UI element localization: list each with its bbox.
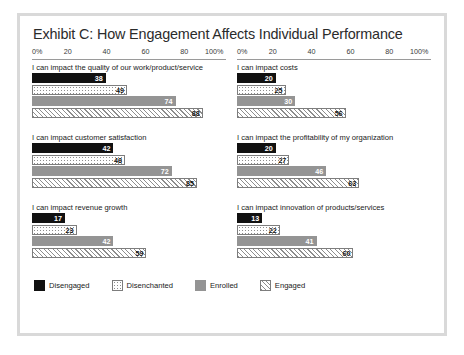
x-axis-left: 0%20406080100% <box>32 47 232 64</box>
axis-tick: 20 <box>269 47 277 56</box>
bar-row: 41 <box>237 236 437 246</box>
bar-disenchanted: 48 <box>32 155 125 165</box>
bar-value-label: 20 <box>265 144 273 154</box>
bar-row: 88 <box>32 108 232 118</box>
bar-group: 42487285 <box>32 143 232 188</box>
bar-engaged: 59 <box>32 248 146 258</box>
axis-tick: 60 <box>346 47 354 56</box>
bar-enrolled: 74 <box>32 96 176 106</box>
legend-item-disenchanted: Disenchanted <box>112 280 173 291</box>
bar-value-label: 63 <box>348 179 356 189</box>
bar-row: 23 <box>32 225 232 235</box>
bar-row: 85 <box>32 178 232 188</box>
legend-item-disengaged: Disengaged <box>34 280 90 291</box>
bar-row: 30 <box>237 96 437 106</box>
bar-enrolled: 46 <box>237 166 326 176</box>
legend-swatch <box>34 280 45 291</box>
chart-panel: I can impact the profitability of my org… <box>237 134 437 204</box>
panel-label: I can impact revenue growth <box>32 204 232 214</box>
chart-panel: I can impact revenue growth17234259 <box>32 204 232 274</box>
bar-disengaged: 13 <box>237 213 262 223</box>
axis-tick: 60 <box>141 47 149 56</box>
bar-value-label: 25 <box>275 86 283 96</box>
bar-row: 20 <box>237 143 437 153</box>
axis-tick: 80 <box>180 47 188 56</box>
bar-value-label: 27 <box>278 156 286 166</box>
panel-label: I can impact innovation of products/serv… <box>237 204 437 214</box>
axis-tick: 0% <box>237 47 247 56</box>
bar-value-label: 56 <box>335 109 343 119</box>
bar-value-label: 22 <box>269 226 277 236</box>
bar-row: 42 <box>32 143 232 153</box>
bar-enrolled: 42 <box>32 236 113 246</box>
bar-disengaged: 42 <box>32 143 113 153</box>
bar-disenchanted: 49 <box>32 85 127 95</box>
bar-row: 49 <box>32 85 232 95</box>
bar-group: 38497488 <box>32 73 232 118</box>
bar-group: 17234259 <box>32 213 232 258</box>
bar-enrolled: 41 <box>237 236 317 246</box>
legend-label: Engaged <box>275 281 305 290</box>
bar-row: 46 <box>237 166 437 176</box>
bar-group: 20253056 <box>237 73 437 118</box>
axis-rule <box>32 59 226 60</box>
bar-row: 22 <box>237 225 437 235</box>
bar-disengaged: 20 <box>237 143 276 153</box>
axis-tick: 0% <box>32 47 42 56</box>
axis-tick: 100% <box>205 47 223 56</box>
bar-row: 27 <box>237 155 437 165</box>
axis-tick: 20 <box>64 47 72 56</box>
bar-row: 17 <box>32 213 232 223</box>
bar-row: 56 <box>237 108 437 118</box>
bar-value-label: 46 <box>315 167 323 177</box>
bar-value-label: 38 <box>95 74 103 84</box>
bar-value-label: 74 <box>165 97 173 107</box>
panel-grid: 0%20406080100%0%20406080100%I can impact… <box>32 47 432 274</box>
axis-tick: 40 <box>103 47 111 56</box>
chart-panel: I can impact innovation of products/serv… <box>237 204 437 274</box>
bar-engaged: 60 <box>237 248 353 258</box>
bar-value-label: 85 <box>186 179 194 189</box>
bar-value-label: 30 <box>284 97 292 107</box>
legend-item-enrolled: Enrolled <box>195 280 238 291</box>
chart-panel: I can impact customer satisfaction424872… <box>32 134 232 204</box>
bar-enrolled: 30 <box>237 96 295 106</box>
bar-group: 13224160 <box>237 213 437 258</box>
panel-label: I can impact customer satisfaction <box>32 134 232 144</box>
bar-engaged: 88 <box>32 108 203 118</box>
axis-tick: 100% <box>410 47 428 56</box>
bar-engaged: 63 <box>237 178 359 188</box>
legend-label: Disengaged <box>49 281 90 290</box>
chart-title: Exhibit C: How Engagement Affects Indivi… <box>33 27 432 43</box>
bar-value-label: 88 <box>192 109 200 119</box>
bar-row: 20 <box>237 73 437 83</box>
bar-value-label: 17 <box>54 214 62 224</box>
bar-row: 74 <box>32 96 232 106</box>
bar-disengaged: 38 <box>32 73 106 83</box>
legend-swatch <box>260 280 271 291</box>
bar-disenchanted: 25 <box>237 85 286 95</box>
bar-row: 59 <box>32 248 232 258</box>
legend-label: Enrolled <box>210 281 238 290</box>
bar-value-label: 60 <box>342 249 350 259</box>
panel-label: I can impact the quality of our work/pro… <box>32 64 232 74</box>
panel-label: I can impact costs <box>237 64 437 74</box>
bar-value-label: 59 <box>135 249 143 259</box>
axis-tick: 80 <box>385 47 393 56</box>
bar-row: 38 <box>32 73 232 83</box>
bar-value-label: 23 <box>66 226 74 236</box>
bar-value-label: 41 <box>306 237 314 247</box>
bar-group: 20274663 <box>237 143 437 188</box>
bar-row: 48 <box>32 155 232 165</box>
bar-value-label: 72 <box>161 167 169 177</box>
axis-rule <box>237 59 431 60</box>
chart-panel: I can impact the quality of our work/pro… <box>32 64 232 134</box>
bar-value-label: 42 <box>102 144 110 154</box>
bar-enrolled: 72 <box>32 166 172 176</box>
bar-row: 42 <box>32 236 232 246</box>
bar-row: 25 <box>237 85 437 95</box>
legend-swatch <box>112 280 123 291</box>
bar-value-label: 49 <box>116 86 124 96</box>
bar-row: 63 <box>237 178 437 188</box>
chart-panel: I can impact costs20253056 <box>237 64 437 134</box>
